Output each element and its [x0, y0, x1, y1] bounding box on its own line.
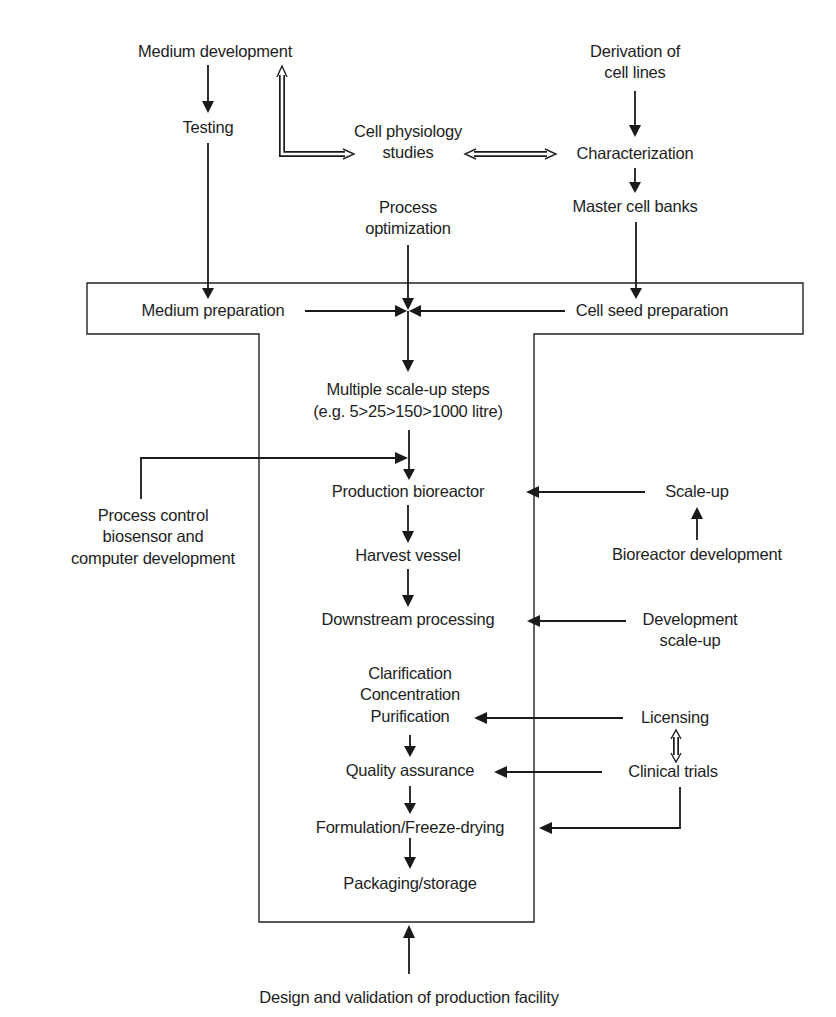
node-bioreactor-development: Bioreactor development: [612, 545, 782, 563]
node-master-cell-banks: Master cell banks: [573, 197, 698, 215]
node-downstream-processing: Downstream processing: [322, 610, 495, 628]
arrow-bioreactor-dev-to-scale-up: [691, 507, 703, 540]
arrow-testing-to-medium-prep: [202, 143, 214, 299]
node-characterization: Characterization: [577, 144, 694, 162]
node-process-optimization-line1: Process: [379, 198, 437, 216]
arrow-medium-dev-to-testing: [202, 65, 214, 113]
diagram-canvas: Medium development Testing Cell physiolo…: [0, 0, 836, 1017]
double-arrow-licensing-clinical-trials: [671, 730, 681, 762]
node-quality-assurance: Quality assurance: [346, 761, 475, 779]
arrow-derivation-to-characterization: [629, 91, 641, 137]
node-design-validation: Design and validation of production faci…: [259, 988, 559, 1006]
double-arrow-cell-physiology-characterization: [465, 149, 556, 159]
flowchart-svg: Medium development Testing Cell physiolo…: [0, 0, 836, 1017]
node-harvest-vessel: Harvest vessel: [355, 546, 460, 564]
node-process-control-line1: Process control: [98, 506, 209, 524]
node-scale-up: Scale-up: [665, 482, 729, 500]
node-medium-development: Medium development: [138, 42, 293, 60]
arrow-clinical-to-formulation: [539, 787, 680, 834]
node-purification: Purification: [370, 707, 449, 725]
arrow-purification-to-quality: [404, 735, 416, 757]
arrow-licensing-to-purification: [474, 712, 623, 724]
arrow-dev-scale-up-to-downstream: [527, 615, 626, 627]
node-medium-preparation: Medium preparation: [141, 301, 284, 319]
node-testing: Testing: [183, 118, 234, 136]
node-cell-physiology-line1: Cell physiology: [354, 122, 463, 140]
arrow-design-validation-to-facility: [403, 925, 415, 974]
node-packaging-storage: Packaging/storage: [343, 874, 476, 892]
node-process-control-line2: biosensor and: [102, 527, 203, 545]
arrow-medium-prep-to-junction: [305, 305, 407, 317]
node-process-control-line3: computer development: [71, 549, 235, 567]
node-derivation-line2: cell lines: [604, 63, 665, 81]
node-clinical-trials: Clinical trials: [628, 762, 718, 780]
arrow-harvest-to-downstream: [402, 569, 414, 607]
arrow-scale-up-to-bioreactor: [526, 486, 645, 498]
node-scale-up-steps-line2: (e.g. 5>25>150>1000 litre): [313, 402, 503, 420]
node-formulation-freeze-drying: Formulation/Freeze-drying: [316, 818, 505, 836]
arrow-quality-to-formulation: [404, 786, 416, 814]
node-clarification: Clarification: [368, 664, 452, 682]
arrow-cell-seed-to-junction: [409, 305, 565, 317]
arrow-formulation-to-packaging: [404, 838, 416, 869]
node-process-optimization-line2: optimization: [365, 219, 451, 237]
arrow-clinical-to-quality: [494, 766, 602, 778]
arrow-scale-up-steps-to-bioreactor: [403, 430, 415, 480]
node-development-scale-up-line1: Development: [642, 610, 738, 628]
node-licensing: Licensing: [641, 708, 709, 726]
node-concentration: Concentration: [360, 685, 460, 703]
arrow-master-banks-to-cell-seed: [630, 222, 642, 299]
node-development-scale-up-line2: scale-up: [660, 631, 721, 649]
node-cell-physiology-line2: studies: [383, 143, 434, 161]
node-cell-seed-preparation: Cell seed preparation: [576, 301, 729, 319]
arrow-bioreactor-to-harvest: [402, 505, 414, 543]
arrow-process-optimization-to-junction: [402, 245, 414, 310]
double-arrow-cell-physiology-to-medium-dev: [277, 66, 354, 159]
arrow-characterization-to-master-banks: [629, 168, 641, 193]
node-scale-up-steps-line1: Multiple scale-up steps: [326, 380, 489, 398]
arrow-junction-to-scale-up-steps: [402, 311, 414, 372]
node-derivation-line1: Derivation of: [590, 42, 681, 60]
node-production-bioreactor: Production bioreactor: [332, 482, 485, 500]
